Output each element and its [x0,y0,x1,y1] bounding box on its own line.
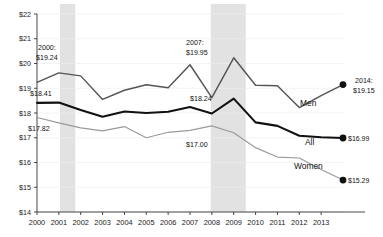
x-axis-label: 2000 [29,218,45,227]
endpoint-dot-all [340,135,347,142]
annotation-a-2007-value: $19.95 [186,49,208,57]
x-axis-label: 2009 [225,218,241,227]
x-axis-label: 2012 [291,218,307,227]
annotation-a-women-start: $17.82 [28,125,50,133]
x-axis-label: 2010 [247,218,263,227]
x-axis-label: 2005 [138,218,154,227]
series-label-women: Women [294,161,323,171]
annotation-a-2007-title: 2007: [186,39,204,47]
series-label-all: All [305,137,314,147]
x-axis-label: 2004 [116,218,132,227]
y-axis-label: $15 [19,183,31,192]
y-axis-label: $17 [19,133,31,142]
annotation-a-women-mid: $17.00 [186,141,208,149]
annotations: 2000:$19.24$18.41$17.822007:$19.95$18.24… [28,39,375,149]
chart-canvas: $14$15$16$17$18$19$20$21$22 200020012002… [0,0,383,237]
endpoint-markers: $16.99$15.29 [340,81,370,184]
x-axis-label: 2008 [204,218,220,227]
endpoint-label-all: $16.99 [348,135,370,142]
annotation-a-2000-title: 2000: [38,44,56,52]
shaded-bands [60,4,246,212]
annotation-a-all-start: $18.41 [30,90,52,98]
endpoint-dot-men [340,81,347,88]
y-axis-label: $22 [19,10,31,19]
endpoint-dot-women [340,177,347,184]
y-axis-label: $16 [19,158,31,167]
y-axis-label: $21 [19,34,31,43]
x-axis-label: 2003 [94,218,110,227]
annotation-a-all-mid: $18.24 [190,95,212,103]
recession-band-2 [211,4,246,212]
x-axis-label: 2007 [182,218,198,227]
x-axis-label: 2002 [72,218,88,227]
annotation-a-2014-title: 2014: [355,77,373,85]
line-chart: $14$15$16$17$18$19$20$21$22 200020012002… [0,0,383,237]
series-label-men: Men [300,98,317,108]
annotation-a-2000-value: $19.24 [36,54,58,62]
y-axis: $14$15$16$17$18$19$20$21$22 [19,10,37,217]
endpoint-label-women: $15.29 [348,177,370,184]
x-axis-label: 2006 [160,218,176,227]
x-axis-label: 2001 [51,218,67,227]
annotation-a-2014-value: $19.15 [353,87,375,95]
y-axis-label: $14 [19,208,31,217]
x-axis: 2000200120022003200420052006200720082009… [29,212,365,227]
y-axis-label: $18 [19,109,31,118]
y-axis-label: $20 [19,59,31,68]
x-axis-label: 2013 [313,218,329,227]
x-axis-label: 2011 [269,218,285,227]
